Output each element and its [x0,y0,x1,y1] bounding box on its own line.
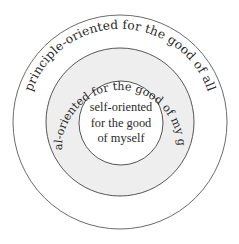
inner-label-line-3: of myself [97,131,145,145]
inner-label-line-1: self-oriented [90,100,153,114]
inner-label-line-2: for the good [91,116,152,130]
concentric-circles-diagram: principle-oriented for the good of all s… [0,0,239,244]
